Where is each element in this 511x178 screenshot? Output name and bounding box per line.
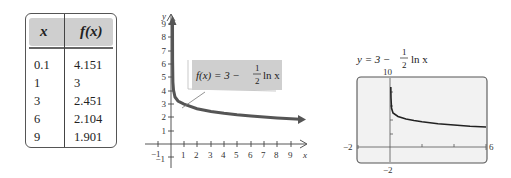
svg-text:y = 3 −: y = 3 − (356, 53, 390, 65)
svg-text:8: 8 (274, 150, 279, 160)
y-axis-label: y (161, 11, 166, 21)
svg-text:10: 10 (383, 67, 393, 77)
calculator-title: y = 3 − 1 2 ln x (356, 47, 428, 70)
svg-text:2: 2 (402, 60, 407, 70)
svg-text:1: 1 (181, 150, 186, 160)
svg-text:f(x) = 3 −: f(x) = 3 − (196, 69, 240, 82)
axes (145, 14, 307, 168)
svg-text:1: 1 (162, 126, 167, 136)
svg-text:6: 6 (162, 59, 167, 69)
svg-text:5: 5 (234, 150, 239, 160)
calculator-screen (357, 77, 487, 163)
svg-text:3: 3 (208, 150, 213, 160)
svg-text:3: 3 (162, 99, 167, 109)
svg-text:1: 1 (255, 63, 260, 73)
x-tick-labels: −1 1 2 3 4 5 6 7 8 9 x (151, 149, 307, 160)
svg-text:2: 2 (162, 112, 167, 122)
y-tick-labels: −1 1 2 3 4 5 6 7 8 9 y (155, 11, 166, 164)
svg-text:ln x: ln x (263, 69, 280, 81)
svg-text:2: 2 (194, 150, 199, 160)
svg-text:1: 1 (402, 47, 407, 57)
svg-text:ln x: ln x (411, 53, 428, 65)
svg-text:6: 6 (248, 150, 253, 160)
svg-text:4: 4 (162, 86, 167, 96)
function-graph: −1 1 2 3 4 5 6 7 8 9 x −1 1 2 3 4 5 6 7 … (0, 0, 511, 178)
svg-text:9: 9 (288, 150, 293, 160)
curve-arrow (298, 115, 306, 124)
svg-text:6: 6 (489, 142, 494, 152)
svg-text:−1: −1 (155, 154, 165, 164)
svg-text:8: 8 (162, 32, 167, 42)
svg-text:−2: −2 (383, 165, 393, 175)
label-leader (182, 92, 205, 108)
svg-text:−2: −2 (343, 142, 353, 152)
svg-text:4: 4 (221, 150, 226, 160)
svg-text:5: 5 (162, 72, 167, 82)
curve-arrow-up (169, 16, 177, 25)
svg-text:7: 7 (162, 46, 167, 56)
svg-text:2: 2 (255, 76, 260, 86)
x-axis-label: x (302, 150, 307, 160)
svg-text:7: 7 (261, 150, 266, 160)
